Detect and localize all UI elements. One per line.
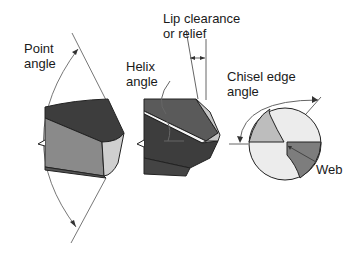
- arrowhead-icon: [237, 136, 243, 143]
- label-helix-angle: Helix angle: [126, 59, 158, 89]
- label-lip-clearance: Lip clearance or relief: [163, 11, 240, 41]
- drill-side-view-1: [38, 99, 124, 178]
- arrowhead-icon: [200, 56, 205, 60]
- label-web: Web: [316, 162, 343, 177]
- arrowhead-icon: [72, 49, 78, 55]
- label-point-angle: Point angle: [24, 41, 56, 71]
- drill-side-view-2: [137, 99, 220, 176]
- drill-end-view: [249, 108, 321, 180]
- label-chisel-edge-angle: Chisel edge angle: [227, 69, 296, 99]
- arrowhead-icon: [70, 220, 76, 227]
